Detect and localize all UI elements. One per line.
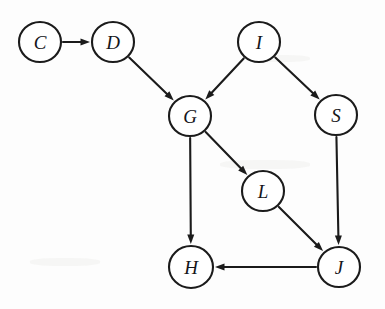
edge-s-to-j bbox=[336, 137, 338, 237]
graph-canvas: CDIGSLHJ bbox=[0, 0, 385, 309]
node-s[interactable]: S bbox=[315, 95, 357, 135]
node-g[interactable]: G bbox=[169, 96, 211, 136]
edges-layer bbox=[63, 39, 342, 271]
edge-i-to-s bbox=[275, 57, 313, 93]
node-j[interactable]: J bbox=[318, 247, 360, 287]
edge-l-to-j bbox=[279, 207, 317, 245]
node-label-g: G bbox=[183, 106, 197, 127]
edge-d-to-g bbox=[129, 58, 168, 95]
edge-g-to-h bbox=[190, 138, 191, 236]
node-c[interactable]: C bbox=[19, 22, 61, 62]
node-h[interactable]: H bbox=[169, 246, 213, 288]
arrowhead-c-to-d bbox=[81, 39, 91, 46]
node-d[interactable]: D bbox=[92, 22, 134, 62]
node-i[interactable]: I bbox=[238, 22, 280, 62]
node-label-l: L bbox=[257, 181, 269, 202]
node-label-s: S bbox=[331, 105, 341, 126]
arrowhead-s-to-j bbox=[335, 235, 342, 245]
node-label-h: H bbox=[183, 257, 199, 278]
arrowhead-j-to-h bbox=[215, 264, 225, 271]
node-label-c: C bbox=[34, 32, 47, 53]
node-label-d: D bbox=[105, 32, 120, 53]
edge-i-to-g bbox=[211, 58, 244, 93]
node-l[interactable]: L bbox=[242, 171, 284, 211]
edge-g-to-l bbox=[206, 132, 242, 169]
directed-graph-figure: CDIGSLHJ bbox=[0, 0, 385, 309]
arrowhead-g-to-h bbox=[187, 234, 194, 244]
